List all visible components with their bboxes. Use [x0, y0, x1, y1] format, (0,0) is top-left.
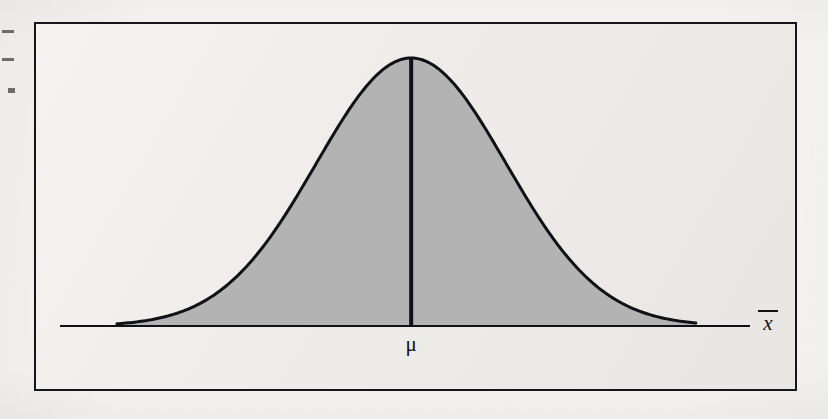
sample-mean-axis-label: x	[758, 310, 778, 334]
scanner-speck	[8, 88, 15, 93]
figure-frame-box: μ x	[34, 22, 797, 391]
figure-page: an increase in mass. To find out just ho…	[0, 0, 828, 419]
mean-symbol-label: μ	[398, 334, 424, 355]
x-glyph: x	[758, 313, 778, 334]
curve-shaded-area	[117, 58, 696, 326]
scanner-speck	[2, 58, 14, 61]
scanner-speck	[2, 30, 14, 33]
